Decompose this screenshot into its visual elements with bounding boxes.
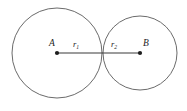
figure-canvas: A r1 r2 B (0, 0, 187, 111)
label-radius-2: r2 (111, 39, 117, 50)
label-center-b: B (143, 38, 149, 48)
label-radius-2-subscript: 2 (114, 44, 117, 50)
geometry-figure: A r1 r2 B (0, 0, 187, 111)
label-center-a: A (48, 38, 55, 48)
label-radius-1-subscript: 1 (76, 44, 79, 50)
label-radius-1: r1 (73, 39, 79, 50)
center-point-b (138, 51, 142, 55)
center-point-a (55, 51, 59, 55)
